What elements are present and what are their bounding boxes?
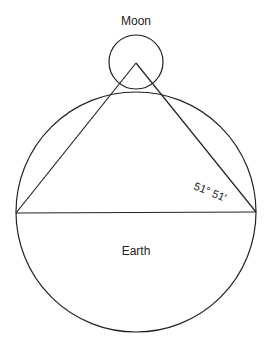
triangle-base-diameter <box>16 212 256 213</box>
earth-moon-diagram: Moon Earth 51° 51′ <box>0 0 270 349</box>
angle-label: 51° 51′ <box>192 180 228 204</box>
triangle-left-side <box>16 63 136 213</box>
earth-label: Earth <box>122 244 151 258</box>
moon-circle <box>109 35 163 89</box>
moon-label: Moon <box>121 14 151 28</box>
